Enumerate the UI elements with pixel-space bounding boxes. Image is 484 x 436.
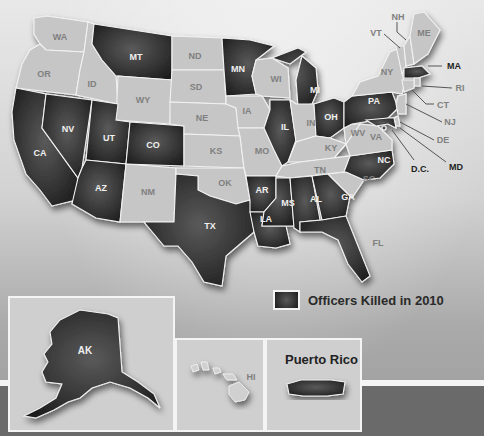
state-FL[interactable] (300, 216, 370, 282)
label-SD: SD (190, 82, 203, 92)
label-WY: WY (136, 95, 151, 105)
label-CA: CA (34, 148, 47, 158)
legend-label: Officers Killed in 2010 (308, 293, 444, 308)
puerto-rico-title: Puerto Rico (285, 352, 358, 367)
label-OR: OR (37, 69, 51, 79)
label-ND: ND (189, 51, 202, 61)
label-WA: WA (53, 32, 68, 42)
hawaii-map: HI (177, 340, 263, 430)
label-CO: CO (146, 140, 160, 150)
label-KS: KS (210, 146, 223, 156)
label-ME: ME (417, 28, 431, 38)
legend: Officers Killed in 2010 (273, 290, 444, 310)
label-WI: WI (271, 74, 282, 84)
label-VT: VT (370, 28, 382, 38)
label-PA: PA (368, 96, 380, 106)
state-NY[interactable] (352, 48, 404, 96)
state-ME[interactable] (410, 12, 440, 64)
legend-swatch (273, 290, 300, 310)
label-MO: MO (255, 146, 270, 156)
state-NJ[interactable] (396, 94, 406, 114)
label-MA: MA (447, 61, 461, 71)
label-DE: DE (437, 135, 450, 145)
label-MS: MS (281, 198, 295, 208)
label-KY: KY (325, 143, 338, 153)
alaska-map: AK (10, 298, 173, 430)
label-OH: OH (324, 112, 338, 122)
state-AK[interactable] (24, 310, 160, 418)
label-UT: UT (103, 133, 115, 143)
label-VA: VA (370, 132, 382, 142)
label-ID: ID (88, 79, 98, 89)
state-PR[interactable] (287, 380, 345, 396)
label-NJ: NJ (444, 117, 456, 127)
label-NV: NV (62, 124, 75, 134)
label-DC: D.C. (411, 164, 429, 174)
label-IN: IN (307, 118, 316, 128)
state-RI[interactable] (414, 78, 420, 86)
inset-alaska: AK (8, 296, 175, 432)
label-TX: TX (204, 221, 216, 231)
label-HI: HI (247, 372, 256, 382)
state-DC[interactable] (382, 126, 386, 130)
label-TN: TN (314, 165, 326, 175)
label-GA: GA (341, 192, 355, 202)
label-MD: MD (449, 162, 463, 172)
label-OK: OK (218, 178, 232, 188)
label-NH: NH (392, 12, 405, 22)
label-CT: CT (437, 100, 449, 110)
label-NC: NC (378, 155, 391, 165)
label-IA: IA (243, 106, 253, 116)
label-RI: RI (456, 83, 465, 93)
label-FL: FL (373, 238, 384, 248)
label-AK: AK (78, 345, 93, 356)
label-AR: AR (256, 185, 269, 195)
label-WV: WV (351, 128, 366, 138)
label-LA: LA (260, 214, 272, 224)
label-AL: AL (310, 194, 322, 204)
label-MN: MN (231, 64, 245, 74)
label-AZ: AZ (95, 183, 107, 193)
label-NE: NE (196, 113, 209, 123)
state-MA[interactable] (404, 66, 430, 78)
label-MI: MI (310, 85, 320, 95)
label-NY: NY (381, 67, 394, 77)
label-MT: MT (130, 52, 143, 62)
label-SC: SC (363, 174, 376, 184)
inset-hawaii: HI (175, 338, 265, 432)
label-IL: IL (281, 122, 290, 132)
label-NM: NM (141, 187, 155, 197)
